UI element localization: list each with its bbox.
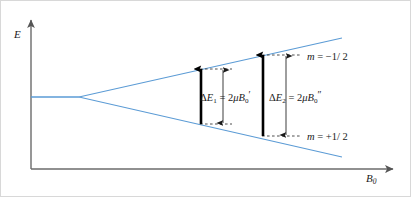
state-label-upper-symbol: m	[307, 51, 315, 62]
x-axis-label-base: B	[366, 172, 373, 184]
transition-2-delta: Δ	[269, 92, 276, 103]
transition-2-equals: = 2	[286, 92, 302, 103]
state-label-lower-symbol: m	[307, 131, 315, 142]
upper-branch-line	[31, 38, 342, 97]
state-label-lower-value: = +1/ 2	[315, 131, 348, 142]
state-label-upper: m = −1/ 2	[307, 52, 348, 63]
state-label-lower: m = +1/ 2	[307, 132, 348, 143]
transition-label-1: ΔE1 = 2μB0′	[200, 90, 251, 105]
x-axis-label-subscript: 0	[373, 177, 377, 186]
transition-1-delta: Δ	[200, 92, 207, 103]
x-axis-label: B0	[366, 173, 376, 186]
transition-label-2: ΔE2 = 2μB0″	[269, 90, 322, 105]
transition-1-prime: ′	[248, 89, 250, 100]
lower-branch-line	[31, 97, 342, 157]
state-label-upper-value: = −1/ 2	[315, 51, 348, 62]
figure-container: E B0 m = −1/ 2 m = +1/ 2 ΔE1 = 2μB0′ ΔE2…	[0, 0, 411, 197]
transition-2-prime: ″	[317, 89, 321, 100]
y-axis-label: E	[14, 29, 21, 40]
transition-1-equals: = 2	[217, 92, 233, 103]
